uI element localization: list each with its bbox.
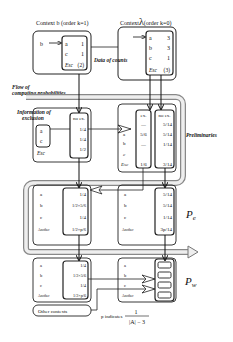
pel-v3: 1/2×p/6 <box>72 227 87 232</box>
pwl-sym-3: Another <box>38 294 50 298</box>
pwr-sym-2: c <box>124 283 126 288</box>
cl-sym-2: c <box>149 55 152 61</box>
cl-esc-count: (3) <box>164 67 171 74</box>
cl-count-1: 3 <box>167 45 170 51</box>
cb-esc: Esc <box>64 62 74 68</box>
cb-count-1: 1 <box>81 51 84 57</box>
pr-sym-0: a <box>123 132 126 137</box>
cl-count-2: 1 <box>167 55 170 61</box>
pwl-sym-2: c <box>40 283 42 288</box>
per-sym-0: a <box>124 192 127 197</box>
prelim-ex-v1: 5/6 <box>140 132 147 137</box>
pr-sym-1: b <box>123 141 126 146</box>
pel-v0: 1/4 <box>80 192 87 197</box>
ppm-diagram: Context b (order k=1) b a 1 c 1 Esc (2) … <box>0 0 233 342</box>
excluded-0: a <box>40 128 43 134</box>
pel-sym-2: c <box>40 215 43 220</box>
cb-esc-count: (2) <box>78 62 85 69</box>
fraction-denominator: |A| − 3 <box>129 319 145 325</box>
pwr-sym-1: b <box>124 273 127 278</box>
prelim-noex-v2: 1/14 <box>163 142 172 147</box>
prelim-ex-v0: — <box>140 122 147 127</box>
prelim-noex-v1: 5/14 <box>163 132 172 137</box>
pw-slot <box>158 272 171 278</box>
prelim-left-v2: 1/2 <box>80 147 87 152</box>
excluded-1: c <box>40 138 43 144</box>
pw-label: Pw <box>184 275 197 289</box>
cb-sym-0: a <box>65 41 68 47</box>
per-v3: 3p/14 <box>161 227 173 232</box>
per-sym-3: Another <box>122 228 134 232</box>
pwr-sym-3: Another <box>122 294 134 298</box>
flow-arrowhead-icon <box>188 246 198 258</box>
cl-count-0: 3 <box>167 35 170 41</box>
pr-sym-3: Esc <box>120 162 129 167</box>
data-of-counts-label: Data of counts <box>93 57 127 63</box>
per-v2: 1/14 <box>163 215 172 220</box>
fraction-numerator: 1 <box>135 309 138 315</box>
per-v0: 5/14 <box>163 192 172 197</box>
excluded-set <box>36 125 50 147</box>
pr-sym-2: c <box>123 152 126 157</box>
prelim-noex-column <box>155 110 174 168</box>
prelim-left-v1: 1/4 <box>80 137 87 142</box>
cl-sym-0: a <box>149 35 152 41</box>
pwl-v1: 1/2×5/6 <box>73 273 86 278</box>
prelim-ex-header: ex. <box>141 113 147 118</box>
per-sym-2: c <box>124 215 127 220</box>
per-v1: 5/14 <box>163 203 172 208</box>
prelim-ex-column <box>136 110 151 168</box>
cb-count-0: 1 <box>81 41 84 47</box>
prelim-left-header: no ex. <box>73 116 85 121</box>
pe-label: Pe <box>185 208 196 222</box>
prelim-noex-v0: 5/14 <box>163 122 172 127</box>
pwr-sym-0: a <box>124 263 126 268</box>
prelim-noex-header: no ex. <box>158 113 170 118</box>
other-contexts-label: Other contexts <box>38 309 67 314</box>
context-lambda-title: Contextλ(order k=0) <box>120 16 171 27</box>
pel-v2: 1/4 <box>80 215 87 220</box>
cb-sym-1: c <box>65 51 68 57</box>
prelim-ex-v2: — <box>140 142 147 147</box>
pel-v1: 1/2×5/6 <box>72 203 87 208</box>
pel-sym-3: Another <box>38 228 50 232</box>
prelim-ex-v3: 1/6 <box>140 162 147 167</box>
pwl-sym-1: b <box>40 273 43 278</box>
pel-sym-1: b <box>40 203 43 208</box>
preliminaries-label: Preliminaries <box>186 132 217 138</box>
p-indicates-label: p indicates <box>101 314 123 319</box>
prelim-noex-v3: 3/14 <box>163 162 172 167</box>
prelim-left-v0: 1/4 <box>80 127 87 132</box>
pw-slot <box>158 282 171 288</box>
pwl-sym-0: a <box>40 263 42 268</box>
pw-slot <box>158 262 171 268</box>
pwl-v0: 1/4 <box>80 263 87 268</box>
prelim-left-esc: Esc <box>36 150 46 156</box>
context-b-title: Context b (order k=1) <box>36 20 89 27</box>
pwl-v3: 1/2×p/6 <box>73 293 86 298</box>
pel-sym-0: a <box>40 192 43 197</box>
cl-esc: Esc <box>148 67 158 73</box>
pw-slot <box>158 292 171 298</box>
pwl-v2: 1/4 <box>80 283 87 288</box>
cl-sym-1: b <box>149 45 152 51</box>
context-b-input: b <box>40 41 43 47</box>
per-sym-1: b <box>124 203 127 208</box>
